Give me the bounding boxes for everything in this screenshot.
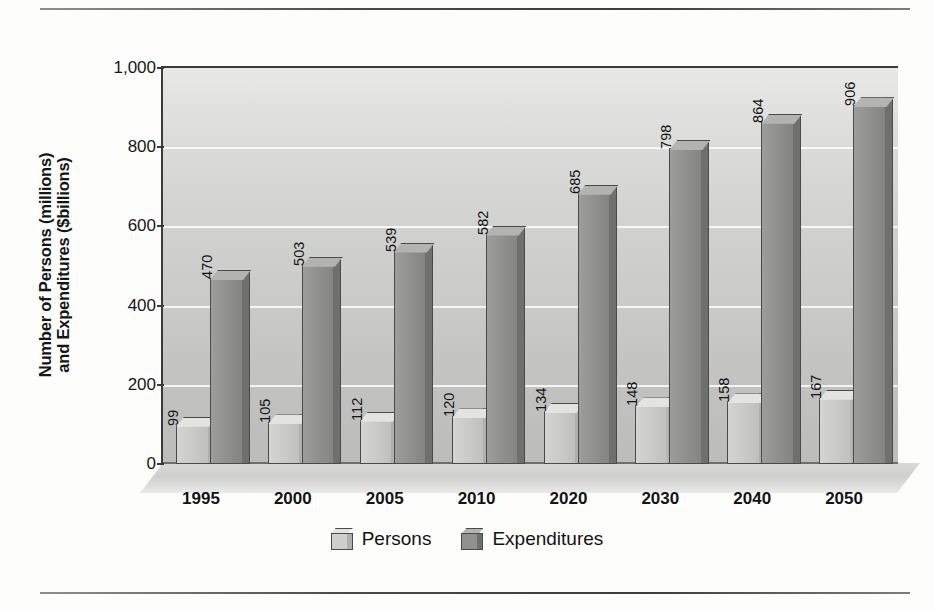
y-axis-tick-mark [157,225,164,227]
x-axis-tick-label: 2005 [343,489,427,509]
bar-expenditures-2010-side-face [517,226,525,464]
bar-value-label: 112 [349,397,365,420]
bar-persons-2050[interactable] [819,398,852,464]
bar-expenditures-2020[interactable] [578,193,611,464]
legend-swatch-icon [331,528,353,550]
bar-expenditures-2050[interactable] [853,105,886,464]
bar-value-label: 105 [257,399,273,424]
bar-expenditures-2005-side-face [425,243,433,464]
bar-persons-2005[interactable] [360,420,393,464]
x-axis-tick-label: 2000 [251,489,335,509]
x-axis-tick-label: 2030 [618,489,702,509]
legend-label: Expenditures [492,528,603,550]
chart-legend: PersonsExpenditures [0,528,934,550]
y-axis-tick-mark [157,384,164,386]
y-axis-tick-mark [157,67,164,69]
legend-swatch-icon [461,528,483,550]
bar-persons-2000[interactable] [268,422,301,464]
y-axis-tick-label: 800 [82,137,156,157]
bar-value-label: 148 [624,382,640,407]
x-axis-tick-label: 2020 [526,489,610,509]
bar-expenditures-2030[interactable] [669,148,702,464]
legend-item-persons[interactable]: Persons [331,528,432,550]
bar-expenditures-1995[interactable] [210,278,243,464]
bar-expenditures-2000-side-face [333,257,341,464]
bar-value-label: 167 [808,374,824,399]
bar-expenditures-1995-side-face [242,270,250,464]
y-axis-tick-label: 0 [82,454,156,474]
bar-expenditures-2050-side-face [885,97,893,464]
y-axis-tick-label: 600 [82,216,156,236]
bar-value-label: 685 [567,169,583,194]
x-axis-tick-label: 2010 [435,489,519,509]
bar-value-label: 120 [441,393,457,418]
x-axis-tick-label: 2050 [802,489,886,509]
legend-swatch-front-face [461,533,478,550]
bar-value-label: 798 [658,124,674,149]
y-axis-tick-labels: 02004006008001,000 [82,0,156,611]
legend-item-expend[interactable]: Expenditures [461,528,603,550]
y-axis-tick-label: 200 [82,375,156,395]
y-axis-tick-label: 400 [82,296,156,316]
y-axis-title-line-1: Number of Persons (millions) [36,153,54,378]
figure-page: Number of Persons (millions) and Expendi… [0,0,934,611]
bar-expenditures-2030-side-face [701,140,709,464]
bar-persons-2010[interactable] [452,416,485,464]
bar-value-label: 582 [475,210,491,235]
bar-value-label: 470 [199,254,215,279]
bar-value-label: 539 [383,227,399,252]
bar-persons-2020[interactable] [544,411,577,464]
y-axis-tick-mark [157,463,164,465]
x-axis-tick-label: 1995 [159,489,243,509]
bar-value-label: 906 [842,82,858,107]
bar-expenditures-2040-side-face [793,114,801,464]
bar-chart-figure: Number of Persons (millions) and Expendi… [0,0,934,611]
bar-persons-2030[interactable] [635,405,668,464]
legend-swatch-front-face [331,533,348,550]
bar-value-label: 99 [165,409,181,425]
y-axis-tick-mark [157,305,164,307]
bar-value-label: 864 [750,98,766,123]
legend-label: Persons [362,528,432,550]
bar-value-label: 158 [716,378,732,403]
legend-swatch-side-face [347,533,353,550]
bar-persons-1995[interactable] [176,425,209,464]
bar-value-label: 134 [533,387,549,412]
bar-expenditures-2020-side-face [609,185,617,464]
legend-swatch-side-face [477,533,483,550]
x-axis-tick-label: 2040 [710,489,794,509]
bar-expenditures-2005[interactable] [394,251,427,464]
y-axis-title: Number of Persons (millions) and Expendi… [26,60,82,470]
bar-persons-2040[interactable] [727,401,760,464]
y-axis-title-line-2: and Expenditures ($billions) [54,153,72,378]
bar-expenditures-2000[interactable] [302,265,335,464]
y-axis-tick-label: 1,000 [82,58,156,78]
bar-expenditures-2010[interactable] [486,234,519,464]
y-axis-tick-mark [157,146,164,148]
bar-value-label: 503 [291,241,307,266]
bar-expenditures-2040[interactable] [761,122,794,464]
